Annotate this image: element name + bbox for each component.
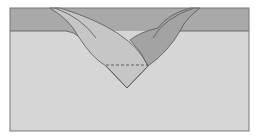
cross-section-diagram [0,0,256,137]
diagram-svg [0,0,256,137]
